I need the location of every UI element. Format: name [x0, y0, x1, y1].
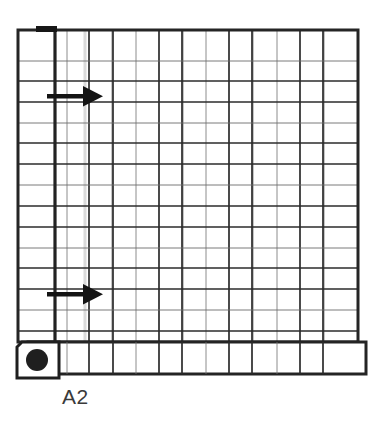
- terminal-node-dot: [26, 349, 48, 371]
- figure-caption: A2: [62, 386, 89, 407]
- figure-root: A2: [0, 0, 387, 434]
- top-black-tab: [36, 26, 57, 32]
- schematic-diagram: [0, 0, 387, 434]
- terminal-node: [17, 342, 59, 378]
- bottom-wide-band: [28, 342, 366, 374]
